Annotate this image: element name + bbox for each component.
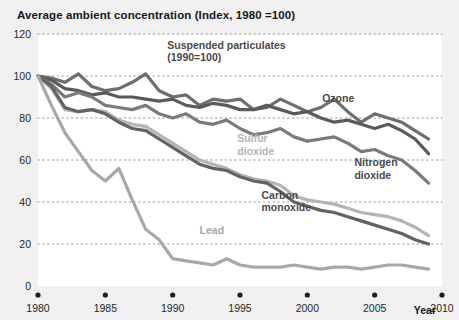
series-label-lead: Lead [200, 224, 225, 236]
x-tick-dot [372, 292, 377, 297]
x-tick-label: 1990 [161, 302, 185, 314]
x-axis-tick-labels: 1980198519901995200020052010 [26, 302, 454, 314]
chart-title: Average ambient concentration (Index, 19… [17, 9, 295, 21]
x-tick-dot [305, 292, 310, 297]
x-tick-dot [439, 292, 444, 297]
series-label-ozone: Ozone [322, 92, 354, 104]
x-tick-label: 1995 [228, 302, 252, 314]
x-tick-label: 1985 [94, 302, 118, 314]
x-axis-title: Year [414, 304, 436, 316]
x-tick-label: 2000 [296, 302, 320, 314]
y-tick-label: 120 [13, 28, 31, 40]
y-tick-label: 60 [19, 154, 31, 166]
x-tick-dot [103, 292, 108, 297]
x-axis-tick-marks [35, 292, 444, 297]
x-tick-label: 2005 [363, 302, 387, 314]
x-tick-dot [237, 292, 242, 297]
y-axis-tick-labels: 020406080100120 [13, 28, 31, 292]
y-tick-label: 100 [13, 70, 31, 82]
x-tick-label: 1980 [26, 302, 50, 314]
y-tick-label: 20 [19, 238, 31, 250]
y-tick-label: 0 [25, 280, 31, 292]
line-chart-plot: 020406080100120 198019851990199520002005… [0, 22, 459, 320]
x-tick-dot [170, 292, 175, 297]
x-tick-dot [35, 292, 40, 297]
y-tick-label: 80 [19, 112, 31, 124]
series-label-nitrogen-dioxide: Nitrogendioxide [354, 156, 397, 181]
y-tick-label: 40 [19, 196, 31, 208]
chart-figure: Average ambient concentration (Index, 19… [0, 0, 459, 320]
